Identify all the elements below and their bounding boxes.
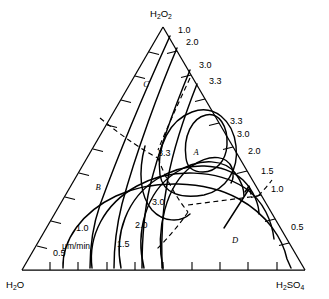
vertex-label-right: H2SO4 [276, 279, 304, 291]
ticks-bottom-edge [50, 262, 277, 270]
interior-value-label-2: 2.0 [135, 220, 148, 230]
contour-tip-1-5 [224, 189, 249, 228]
edge-value-label-1: 2.0 [186, 37, 199, 47]
edge-value-label-9: 0.5 [291, 222, 304, 232]
edge-value-label-5: 3.0 [237, 129, 250, 139]
dashed-line-right-short [258, 180, 272, 196]
region-label-c: C [143, 79, 149, 89]
region-label-b: B [95, 182, 100, 192]
region-label-d: D [231, 235, 239, 245]
vertex-label-left: H2O [6, 279, 24, 291]
axis-right-edge [163, 27, 305, 270]
edge-value-label-4: 3.3 [230, 116, 243, 126]
edge-value-label-2: 3.0 [199, 60, 212, 70]
contour-closed-max-3-3 [185, 115, 227, 172]
edge-value-label-0: 1.0 [178, 25, 191, 35]
edge-value-label-7: 1.5 [261, 166, 274, 176]
dashed-tielines [100, 78, 272, 250]
edge-value-label-8: 1.0 [271, 184, 284, 194]
ternary-diagram: H2O2 H2O H2SO4 1.02.03.03.33.33.02.01.51… [0, 0, 329, 299]
region-label-a: A [192, 147, 199, 157]
dashed-line-diagonal [100, 118, 158, 158]
edge-value-label-3: 3.3 [209, 76, 222, 86]
diagram-canvas: H2O2 H2O H2SO4 1.02.03.03.33.33.02.01.51… [0, 0, 329, 299]
contour-1-5 [119, 166, 259, 268]
vertex-label-top: H2O2 [150, 8, 172, 20]
interior-value-label-3: 1.5 [117, 239, 130, 249]
interior-value-label-1: 3.0 [152, 197, 165, 207]
interior-value-label-4: 1.0 [76, 223, 89, 233]
edge-value-label-6: 2.0 [248, 146, 261, 156]
interior-value-label-0: 3.3 [158, 148, 171, 158]
units-label: μm/min [62, 241, 90, 251]
